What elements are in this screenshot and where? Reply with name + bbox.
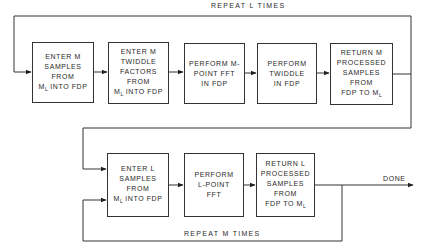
done-label: DONE [383,175,406,182]
box-text-line: PERFORM M- [189,59,240,69]
box-text-line: SAMPLES [343,68,380,78]
box-text-line: FROM [274,189,297,199]
box-text-line: FDP TO ML [265,199,306,211]
box-text-line: ENTER L [121,164,155,174]
box-text-line: TWIDDLE [121,57,157,67]
l-point-fft-box: PERFORM L-POINT FFT [184,153,244,217]
box-text-line: ML INTO FDP [38,82,87,94]
box-text-line: FDP TO ML [341,88,382,100]
box-text-line: RETURN L [266,159,306,169]
twiddle-box: PERFORM TWIDDLE IN FDP [257,43,317,104]
box-text-line: IN FDP [201,79,228,89]
box-text-line: FACTORS [120,67,157,77]
box-text-line: PERFORM [267,59,306,69]
box-text-line: ML INTO FDP [114,87,163,99]
enter-l-samples-box: ENTER L SAMPLES FROM ML INTO FDP [107,153,169,217]
box-text-line: ENTER M [121,47,157,57]
repeat-l-times-label: REPEAT L TIMES [211,2,285,9]
box-text-line: FROM [126,184,149,194]
box-text-line: SAMPLES [267,179,304,189]
box-text-line: TWIDDLE [269,69,305,79]
box-text-line: PROCESSED [261,169,310,179]
box-text-line: FFT [207,190,222,200]
return-l-box: RETURN L PROCESSED SAMPLES FROM FDP TO M… [256,153,315,217]
box-text-line: IN FDP [274,79,301,89]
repeat-m-times-label: REPEAT M TIMES [184,230,261,237]
box-text-line: ENTER M [45,52,81,62]
enter-m-samples-box: ENTER M SAMPLES FROM ML INTO FDP [32,42,94,103]
enter-m-twiddle-box: ENTER M TWIDDLE FACTORS FROM ML INTO FDP [108,42,169,104]
m-point-fft-box: PERFORM M- POINT FFT IN FDP [184,43,245,104]
box-text-line: POINT FFT [194,69,235,79]
box-text-line: FROM [127,77,150,87]
box-text-line: FROM [350,78,373,88]
box-text-line: L-POINT [198,180,230,190]
box-text-line: RETURN M [341,48,383,58]
box-text-line: SAMPLES [119,174,156,184]
box-text-line: ML INTO FDP [113,194,162,206]
return-m-box: RETURN M PROCESSED SAMPLES FROM FDP TO M… [330,43,393,105]
box-text-line: FROM [51,72,74,82]
box-text-line: PROCESSED [337,58,386,68]
box-text-line: PERFORM [194,170,233,180]
box-text-line: SAMPLES [44,62,81,72]
